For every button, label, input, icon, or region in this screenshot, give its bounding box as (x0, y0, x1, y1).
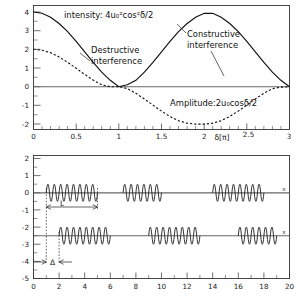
bottom-xtick-label: 12 (183, 282, 192, 291)
bottom-xtick-label: 8 (134, 282, 139, 291)
top-ytick-label: -1 (22, 101, 29, 110)
top-xtick-label: 1.5 (156, 132, 167, 141)
top-ytick-label: 3 (24, 26, 29, 35)
top-ytick-label: 2 (24, 45, 29, 54)
path-difference-label: Δ (50, 258, 55, 267)
top-xtick-label: 2 (202, 132, 207, 141)
bottom-xtick-label: 0 (31, 282, 36, 291)
top-xtick-label: 2.5 (243, 130, 254, 139)
top-xtick-label: 1 (117, 132, 122, 141)
top-ytick-label: 0 (24, 82, 29, 91)
bottom-xtick-label: 4 (82, 282, 87, 291)
svg-text:Constructive: Constructive (187, 29, 240, 39)
figure-background (0, 0, 303, 296)
bottom-ytick-label: 0 (24, 188, 29, 197)
bottom-ytick-label: -3 (22, 240, 29, 249)
top-xtick-label: 0.5 (70, 132, 81, 141)
svg-text:Amplitude:2u₀cosδ/2: Amplitude:2u₀cosδ/2 (170, 98, 257, 108)
svg-text:interference: interference (91, 56, 142, 66)
top-ytick-label: 4 (24, 8, 29, 17)
bottom-ytick-label: -4 (22, 257, 30, 266)
bottom-ytick-label: 2 (24, 154, 29, 163)
bottom-xtick-label: 16 (234, 282, 244, 291)
bottom-ytick-label: -1 (22, 206, 29, 215)
svg-text:Destructive: Destructive (91, 45, 139, 55)
bottom-ytick-label: 1 (24, 171, 29, 180)
bottom-xtick-label: 18 (259, 282, 269, 291)
figure-canvas: 4 3 2 1 0 -1 -2 (0, 0, 303, 296)
top-xtick-label: 3 (287, 132, 292, 141)
interference-figure: 4 3 2 1 0 -1 -2 (0, 0, 303, 296)
bottom-xtick-label: 10 (157, 282, 167, 291)
amplitude-label: Amplitude:2u₀cosδ/2 (170, 98, 257, 108)
svg-text:interference: interference (187, 40, 238, 50)
intensity-label: intensity: 4u₀²cos²δ/2 (64, 10, 153, 20)
top-xaxis-title: δ[π] (214, 133, 229, 142)
bottom-xtick-label: 2 (57, 282, 62, 291)
bottom-xtick-label: 6 (108, 282, 113, 291)
top-ytick-label: 1 (24, 64, 29, 73)
bottom-ytick-label: -2 (22, 223, 29, 232)
bottom-xtick-label: 20 (285, 282, 295, 291)
bottom-ytick-label: -5 (22, 274, 29, 283)
top-xtick-label: 0 (31, 132, 36, 141)
bottom-xtick-label: 14 (208, 282, 218, 291)
top-ytick-label: -2 (22, 120, 29, 129)
